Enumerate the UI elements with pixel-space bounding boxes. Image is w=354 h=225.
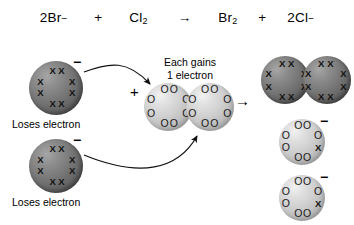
- diagram-canvas: 2Br− + Cl2 → Br2 + 2Cl− X X X X X X X X …: [0, 0, 354, 225]
- electron-transfer-arrows: [0, 0, 354, 225]
- arrow-electron-transfer-top: [84, 65, 150, 84]
- arrow-electron-transfer-bottom: [84, 136, 197, 168]
